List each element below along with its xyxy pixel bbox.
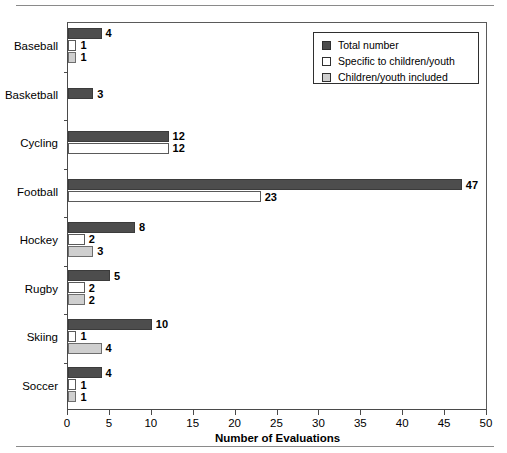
bar-row: 1 (68, 379, 486, 390)
bar-hockey-series0 (68, 222, 135, 233)
bar-row: 5 (68, 270, 486, 281)
x-axis-tick (360, 410, 361, 415)
bar-row: 12 (68, 143, 486, 154)
legend-item-included: Children/youth included (322, 70, 478, 85)
y-axis-tick (64, 120, 68, 121)
bar-baseball-series0 (68, 28, 102, 39)
top-divider-rule (16, 5, 494, 6)
bar-skiing-series1 (68, 331, 76, 342)
bar-value-label: 10 (152, 318, 168, 330)
bar-value-label: 12 (169, 142, 185, 154)
bar-value-label: 3 (93, 88, 103, 100)
bar-value-label: 12 (169, 130, 185, 142)
y-axis-tick (64, 266, 68, 267)
x-tick-label: 35 (354, 417, 367, 429)
bar-soccer-series1 (68, 379, 76, 390)
bar-hockey-series2 (68, 246, 93, 257)
y-label-hockey: Hockey (20, 234, 58, 246)
x-axis-tick (486, 410, 487, 415)
bar-cycling-series0 (68, 131, 169, 142)
bar-row: 3 (68, 88, 486, 99)
bar-value-label: 4 (102, 27, 112, 39)
x-tick-label: 50 (480, 417, 493, 429)
bar-value-label: 2 (85, 233, 95, 245)
x-axis-tick (67, 410, 68, 415)
bar-row: 8 (68, 222, 486, 233)
bar-soccer-series0 (68, 367, 102, 378)
bottom-divider-rule (16, 446, 494, 447)
bar-value-label: 1 (76, 39, 86, 51)
legend-item-specific: Specific to children/youth (322, 54, 478, 69)
bar-value-label: 5 (110, 270, 120, 282)
y-label-basketball: Basketball (5, 89, 58, 101)
bar-row: 4 (68, 367, 486, 378)
bar-value-label: 1 (76, 391, 86, 403)
y-label-baseball: Baseball (14, 40, 58, 52)
bar-rugby-series1 (68, 282, 85, 293)
x-tick-label: 5 (106, 417, 112, 429)
bar-value-label: 4 (102, 367, 112, 379)
x-tick-label: 45 (438, 417, 451, 429)
legend-item-total: Total number (322, 38, 478, 53)
bar-value-label: 47 (462, 179, 478, 191)
bar-football-series1 (68, 191, 261, 202)
bar-value-label: 1 (76, 51, 86, 63)
bar-value-label: 2 (85, 294, 95, 306)
x-tick-label: 0 (64, 417, 70, 429)
x-tick-label: 25 (270, 417, 283, 429)
bar-row: 12 (68, 131, 486, 142)
x-axis-tick (318, 410, 319, 415)
bar-row: 1 (68, 331, 486, 342)
bar-football-series0 (68, 179, 462, 190)
y-label-football: Football (17, 186, 58, 198)
legend-label-included: Children/youth included (338, 72, 448, 83)
bar-rugby-series2 (68, 294, 85, 305)
bar-hockey-series1 (68, 234, 85, 245)
bar-value-label: 23 (261, 191, 277, 203)
x-tick-label: 15 (186, 417, 199, 429)
bar-row: 1 (68, 391, 486, 402)
bar-skiing-series0 (68, 319, 152, 330)
bar-row: 3 (68, 246, 486, 257)
chart-page: BaseballBasketballCyclingFootballHockeyR… (0, 0, 507, 453)
bar-value-label: 8 (135, 221, 145, 233)
bar-rugby-series0 (68, 270, 110, 281)
x-axis-tick (444, 410, 445, 415)
x-axis-tick (193, 410, 194, 415)
bar-row: 2 (68, 294, 486, 305)
bar-row: 2 (68, 282, 486, 293)
y-label-skiing: Skiing (27, 331, 58, 343)
y-label-rugby: Rugby (25, 283, 58, 295)
x-axis-tick (151, 410, 152, 415)
bar-baseball-series2 (68, 52, 76, 63)
x-tick-label: 10 (144, 417, 157, 429)
legend-swatch-total-icon (322, 41, 331, 50)
x-tick-label: 20 (228, 417, 241, 429)
x-tick-label: 40 (396, 417, 409, 429)
bar-value-label: 4 (102, 342, 112, 354)
bar-row: 23 (68, 191, 486, 202)
x-axis-tick (235, 410, 236, 415)
bar-row: 10 (68, 319, 486, 330)
legend-swatch-included-icon (322, 73, 331, 82)
y-axis-tick (64, 363, 68, 364)
bar-value-label: 3 (93, 245, 103, 257)
bar-soccer-series2 (68, 391, 76, 402)
bar-value-label: 2 (85, 282, 95, 294)
x-axis-tick (109, 410, 110, 415)
bar-row: 4 (68, 343, 486, 354)
y-label-soccer: Soccer (22, 380, 58, 392)
bar-baseball-series1 (68, 40, 76, 51)
bar-cycling-series1 (68, 143, 169, 154)
legend-label-total: Total number (338, 40, 399, 51)
bar-basketball-series0 (68, 88, 93, 99)
chart-legend: Total number Specific to children/youth … (313, 32, 479, 84)
y-axis-category-labels: BaseballBasketballCyclingFootballHockeyR… (0, 22, 62, 410)
bar-row: 47 (68, 179, 486, 190)
y-axis-tick (64, 314, 68, 315)
y-label-cycling: Cycling (20, 137, 58, 149)
bar-value-label: 1 (76, 330, 86, 342)
x-tick-label: 30 (312, 417, 325, 429)
bar-value-label: 1 (76, 379, 86, 391)
x-axis-tick (402, 410, 403, 415)
